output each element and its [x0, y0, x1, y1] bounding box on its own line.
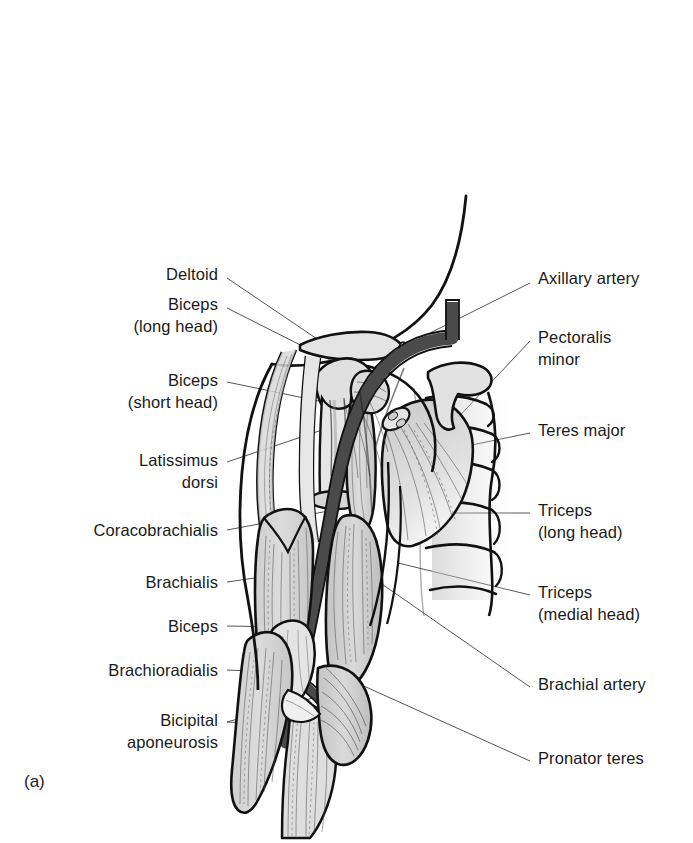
label-pectoralis-minor: Pectoralisminor	[538, 327, 693, 371]
label-brachialis: Brachialis	[0, 572, 218, 594]
label-triceps-medial-head: Triceps(medial head)	[538, 582, 693, 626]
label-brachioradialis: Brachioradialis	[0, 660, 218, 682]
label-coracobrachialis: Coracobrachialis	[0, 520, 218, 542]
pronator-teres-muscle	[317, 666, 371, 765]
label-teres-major: Teres major	[538, 420, 693, 442]
label-bicipital-aponeurosis: Bicipitalaponeurosis	[0, 710, 218, 754]
leader-pronator-teres	[346, 678, 530, 761]
label-biceps-long-head: Biceps(long head)	[0, 294, 218, 338]
leader-axillary-artery	[430, 283, 530, 333]
figure-page: Deltoid Biceps(long head) Biceps(short h…	[0, 0, 693, 843]
label-biceps: Biceps	[0, 616, 218, 638]
label-axillary-artery: Axillary artery	[538, 268, 693, 290]
label-brachial-artery: Brachial artery	[538, 674, 693, 696]
biceps-long-head-belly	[326, 515, 382, 688]
label-triceps-long-head: Triceps(long head)	[538, 500, 693, 544]
panel-letter: (a)	[24, 772, 45, 792]
label-deltoid: Deltoid	[0, 264, 218, 286]
label-biceps-short-head: Biceps(short head)	[0, 370, 218, 414]
label-latissimus-dorsi: Latissimusdorsi	[0, 450, 218, 494]
label-pronator-teres: Pronator teres	[538, 748, 693, 770]
